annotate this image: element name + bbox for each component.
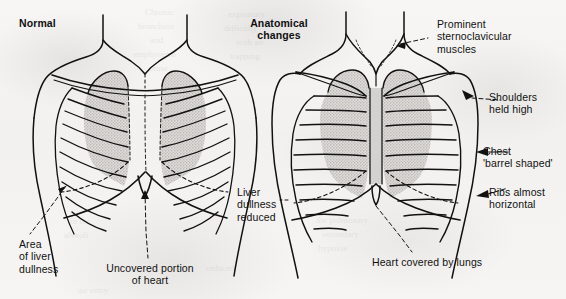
normal-ribcage-lateral-left	[55, 88, 74, 234]
normal-suprasternal-notch	[103, 40, 187, 74]
leader-uncovered-heart	[145, 192, 148, 258]
arrowhead-ribs-horizontal	[476, 190, 489, 198]
changes-sternocleidomastoid-right	[381, 40, 396, 66]
label-heart-covered-by-lungs: Heart covered by lungs	[372, 256, 482, 268]
normal-ribcage-lateral-right	[216, 88, 235, 234]
changes-torso-left	[272, 73, 300, 278]
changes-suprasternal-notch	[346, 34, 404, 74]
normal-sternum-midline	[145, 74, 146, 172]
panel-heading-anatomical-changes: Anatomical changes	[240, 17, 318, 42]
label-liver-dullness-reduced: Liver dullness reduced	[237, 186, 276, 223]
changes-sternocleidomastoid-left	[356, 40, 371, 66]
label-prominent-sternoclavicular-muscles: Prominent sternoclavicular muscles	[437, 18, 512, 55]
arrowhead-sternoclavicular	[396, 42, 406, 49]
normal-costal-margin-right	[146, 172, 227, 218]
label-ribs-almost-horizontal: Ribs almost horizontal	[489, 186, 545, 211]
panel-heading-normal: Normal	[19, 17, 56, 29]
label-shoulders-held-high: Shoulders held high	[489, 91, 537, 116]
leader-heart-covered-by-lungs	[376, 206, 412, 252]
changes-xiphoid-notch	[372, 186, 380, 205]
changes-torso-right	[450, 73, 478, 278]
changes-lung-fields	[320, 70, 432, 198]
label-area-of-liver-dullness: Area of liver dullness	[19, 238, 58, 275]
label-chest-barrel-shaped: Chest 'barrel shaped'	[483, 145, 553, 170]
figure-page: Chronic bronchitis and emphysema cause e…	[0, 0, 566, 299]
leader-area-of-liver-dullness	[30, 186, 66, 234]
normal-chest-drawing	[30, 15, 257, 276]
label-uncovered-portion-of-heart: Uncovered portion of heart	[86, 262, 214, 287]
